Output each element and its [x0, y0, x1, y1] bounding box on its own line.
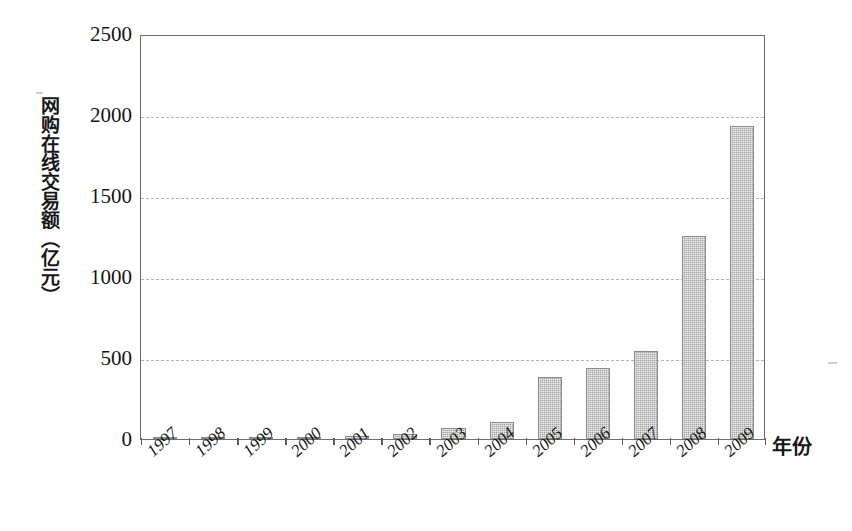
- plot-area: [140, 35, 765, 440]
- x-tick-mark: [718, 438, 719, 445]
- x-tick-mark: [765, 438, 766, 445]
- bar-series: [141, 36, 764, 439]
- x-tick-mark: [574, 438, 575, 445]
- bar: [730, 126, 754, 439]
- bar: [682, 236, 706, 439]
- x-tick-mark: [237, 438, 238, 445]
- y-axis-tick-labels: 05001000150020002500: [62, 0, 132, 531]
- y-tick-label: 1000: [62, 267, 132, 288]
- x-tick-mark: [478, 438, 479, 445]
- x-tick-mark: [622, 438, 623, 445]
- x-tick-mark: [670, 438, 671, 445]
- x-tick-mark: [381, 438, 382, 445]
- y-tick-label: 0: [62, 429, 132, 450]
- chart-canvas: 网购在线交易额（亿元） 05001000150020002500 1997199…: [0, 0, 852, 531]
- x-tick-mark: [189, 438, 190, 445]
- y-axis-title: 网购在线交易额（亿元）: [24, 96, 58, 305]
- y-tick-label: 500: [62, 348, 132, 369]
- y-tick-label: 1500: [62, 186, 132, 207]
- x-axis-tick-labels: 1997199819992000200120022003200420052006…: [140, 447, 800, 531]
- x-tick-mark: [526, 438, 527, 445]
- scan-speck: [828, 362, 837, 364]
- y-tick-label: 2500: [62, 24, 132, 45]
- x-tick-mark: [333, 438, 334, 445]
- x-tick-mark: [429, 438, 430, 445]
- y-tick-label: 2000: [62, 105, 132, 126]
- x-axis-title: 年份: [772, 437, 812, 457]
- x-tick-mark: [285, 438, 286, 445]
- scan-speck: [36, 92, 43, 94]
- x-tick-mark: [141, 438, 142, 445]
